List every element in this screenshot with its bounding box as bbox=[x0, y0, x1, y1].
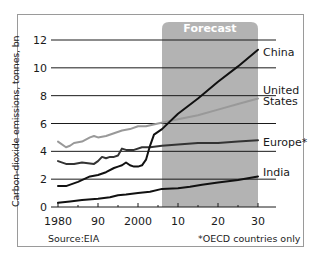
x-tick-label: 20 bbox=[211, 215, 225, 228]
x-tick-labels: 1980902000102030 bbox=[44, 215, 265, 228]
y-tick-label: 0 bbox=[40, 201, 47, 214]
y-axis-label: Carbon-dioxide emissions, tonnes, bn bbox=[10, 36, 21, 207]
y-tick-label: 12 bbox=[33, 34, 47, 47]
x-tick-label: 2000 bbox=[124, 215, 152, 228]
y-tick-label: 10 bbox=[33, 62, 47, 75]
x-tick-label: 1980 bbox=[44, 215, 72, 228]
y-tick-labels: 024681012 bbox=[33, 34, 47, 214]
forecast-label: Forecast bbox=[183, 22, 236, 35]
x-tick-label: 30 bbox=[251, 215, 265, 228]
y-tick-label: 2 bbox=[40, 173, 47, 186]
y-tick-label: 8 bbox=[40, 90, 47, 103]
source-note: Source:EIA bbox=[48, 233, 99, 244]
label-india: India bbox=[263, 166, 290, 179]
footnote: *OECD countries only bbox=[198, 233, 300, 244]
x-tick-label: 90 bbox=[91, 215, 105, 228]
label-europe: Europe* bbox=[263, 136, 308, 149]
series-labels: ChinaUnitedStatesEurope*India bbox=[263, 46, 308, 179]
line-chart: Forecast 024681012 1980902000102030 Chin… bbox=[0, 0, 316, 258]
label-china: China bbox=[263, 46, 294, 59]
y-tick-label: 4 bbox=[40, 145, 47, 158]
y-tick-label: 6 bbox=[40, 118, 47, 131]
label-united-states: States bbox=[263, 95, 298, 108]
x-tick-label: 10 bbox=[171, 215, 185, 228]
